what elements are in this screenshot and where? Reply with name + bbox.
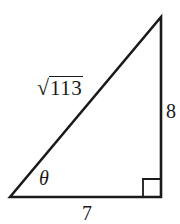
right-triangle-figure: √113 8 7 θ — [0, 0, 180, 224]
right-angle-marker-icon — [143, 179, 161, 197]
triangle-outline — [10, 17, 161, 197]
angle-theta-label: θ — [39, 168, 49, 188]
triangle-drawing — [0, 0, 180, 224]
hypotenuse-label: √113 — [37, 76, 83, 99]
radical-sign-icon: √ — [37, 77, 49, 99]
hypotenuse-radicand: 113 — [49, 76, 83, 99]
adjacent-leg-label: 7 — [82, 203, 92, 223]
opposite-leg-label: 8 — [166, 101, 176, 121]
